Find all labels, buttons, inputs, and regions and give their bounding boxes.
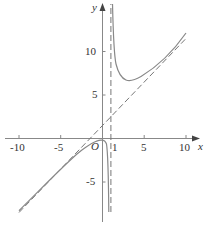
function-plot [0, 0, 210, 228]
curve-right-branch [113, 4, 187, 81]
x-axis-label: x [198, 141, 203, 152]
y-tick-label-m5: -5 [86, 176, 95, 187]
y-axis-label: y [92, 2, 97, 13]
x-tick-label-5: 5 [141, 142, 147, 153]
x-tick-label-m5: -5 [54, 142, 63, 153]
x-tick-label-10: 10 [179, 142, 190, 153]
y-tick-label-10: 10 [85, 46, 96, 57]
y-tick-label-5: 5 [92, 89, 98, 100]
x-tick-label-1: 1 [112, 142, 118, 153]
y-axis-arrow-icon [100, 3, 106, 11]
origin-label: O [91, 141, 99, 152]
x-tick-label-m10: -10 [10, 142, 25, 153]
